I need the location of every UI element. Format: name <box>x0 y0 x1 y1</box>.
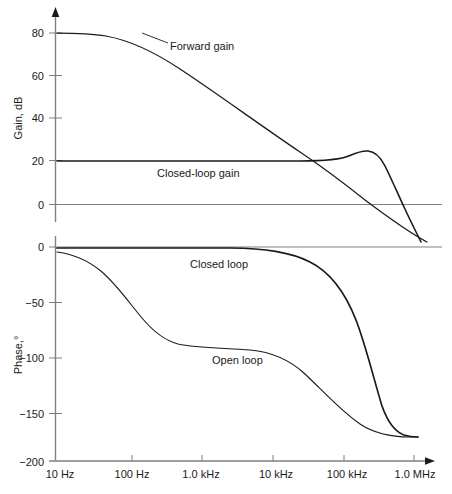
gain-ytick-label-20: 20 <box>32 155 44 167</box>
closed-loop-phase-label: Closed loop <box>190 258 248 270</box>
closed-loop-gain-curve <box>57 151 421 242</box>
phase-x-axis-arrow-icon <box>425 457 435 464</box>
xtick-label-1khz: 1.0 kHz <box>182 468 219 480</box>
gain-axis-title: Gain, dB <box>12 97 24 140</box>
phase-ytick-label-minus50: −50 <box>25 297 44 309</box>
bode-plot-figure: 80 60 40 20 0 Gain, dB Forward gain Clos… <box>0 0 452 494</box>
forward-gain-leader-line <box>142 33 168 43</box>
xtick-label-10hz: 10 Hz <box>46 468 75 480</box>
phase-ytick-label-minus200: −200 <box>19 456 44 468</box>
phase-panel: 0 −50 −100 −150 −200 Phase,° Closed loop… <box>12 236 442 480</box>
xtick-label-1mhz: 1.0 MHz <box>395 468 436 480</box>
bode-plot-svg: 80 60 40 20 0 Gain, dB Forward gain Clos… <box>0 0 452 494</box>
xtick-label-10khz: 10 kHz <box>259 468 293 480</box>
closed-loop-phase-curve <box>57 248 418 437</box>
gain-ytick-label-80: 80 <box>32 27 44 39</box>
open-loop-phase-label: Open loop <box>212 354 263 366</box>
phase-ytick-label-minus150: −150 <box>19 408 44 420</box>
gain-y-axis-arrow-icon <box>52 7 60 17</box>
phase-axis-title: Phase,° <box>12 336 24 375</box>
forward-gain-label: Forward gain <box>170 40 234 52</box>
xtick-label-100hz: 100 Hz <box>115 468 150 480</box>
phase-ytick-label-0: 0 <box>38 241 44 253</box>
gain-ytick-label-40: 40 <box>32 112 44 124</box>
closed-loop-gain-label: Closed-loop gain <box>157 167 240 179</box>
gain-ytick-label-60: 60 <box>32 70 44 82</box>
gain-ytick-label-0: 0 <box>38 199 44 211</box>
forward-gain-curve <box>57 33 427 242</box>
gain-panel: 80 60 40 20 0 Gain, dB Forward gain Clos… <box>12 7 442 242</box>
xtick-label-100khz: 100 kHz <box>327 468 367 480</box>
